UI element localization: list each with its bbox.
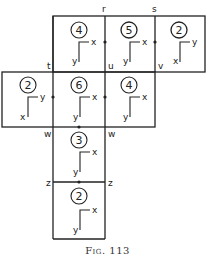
figure-caption: Fig. 113: [0, 245, 215, 256]
axis-label-v: x: [173, 56, 179, 66]
axis-label-h: y: [192, 37, 198, 47]
axis-label-v: y: [123, 56, 129, 66]
axis-corner-icon: [28, 97, 38, 117]
face-number: 2: [25, 79, 32, 92]
axis-corner-icon: [130, 97, 140, 117]
face-top-mid: 5 x y: [121, 22, 148, 66]
axis-label-h: x: [92, 205, 98, 215]
face-number: 4: [76, 24, 83, 37]
edge-label-r: r: [102, 4, 106, 14]
hinge-dot: [51, 95, 54, 98]
face-number: 5: [126, 24, 133, 37]
edge-label-v: v: [158, 61, 164, 71]
axis-label-h: y: [40, 92, 46, 102]
axis-label-h: x: [142, 37, 148, 47]
edge-label-z-right: z: [108, 178, 113, 188]
edge-label-u: u: [108, 61, 114, 71]
axis-label-v: y: [73, 225, 79, 235]
face-number: 2: [176, 24, 183, 37]
axis-label-v: y: [72, 56, 78, 66]
axis-label-v: y: [73, 167, 79, 177]
axis-corner-icon: [130, 42, 140, 62]
edge-label-t: t: [47, 61, 51, 71]
axis-label-v: x: [20, 112, 26, 122]
face-number: 3: [76, 134, 83, 147]
axis-corner-icon: [180, 42, 190, 62]
axis-label-h: x: [92, 147, 98, 157]
axis-label-h: x: [91, 37, 97, 47]
face-mid-center: 6 x y: [71, 77, 98, 122]
face-number: 6: [76, 79, 83, 92]
hinge-dot: [153, 40, 156, 43]
hinge-dot: [103, 40, 106, 43]
axis-label-v: y: [73, 112, 79, 122]
face-top-right: 2 y x: [171, 22, 198, 66]
edge-label-w-right: w: [108, 129, 115, 139]
edge-label-z-left: z: [46, 178, 51, 188]
hinge-dot: [77, 180, 80, 183]
axis-corner-icon: [80, 97, 90, 117]
grid-lines: [2, 16, 205, 239]
face-mid-left: 2 y x: [20, 77, 46, 122]
net-diagram: r s t u v w w z z 4 x y 5 x y 2 y x 2 y …: [0, 0, 215, 263]
axis-corner-icon: [79, 42, 89, 62]
axis-label-h: x: [92, 92, 98, 102]
axis-label-v: y: [123, 112, 129, 122]
hinge-dot: [77, 125, 80, 128]
edge-label-s: s: [152, 4, 157, 14]
hinge-dot: [103, 95, 106, 98]
face-mid-right: 4 x y: [121, 77, 148, 122]
axis-corner-icon: [80, 152, 90, 172]
face-lower: 3 x y: [71, 132, 98, 177]
axis-label-h: x: [142, 92, 148, 102]
face-bottom: 2 x y: [71, 188, 98, 235]
hinge-dots: [51, 40, 156, 183]
face-top-left: 4 x y: [71, 22, 97, 66]
face-number: 4: [126, 79, 133, 92]
face-number: 2: [76, 190, 83, 203]
axis-corner-icon: [80, 210, 90, 230]
edge-label-w-left: w: [44, 129, 51, 139]
